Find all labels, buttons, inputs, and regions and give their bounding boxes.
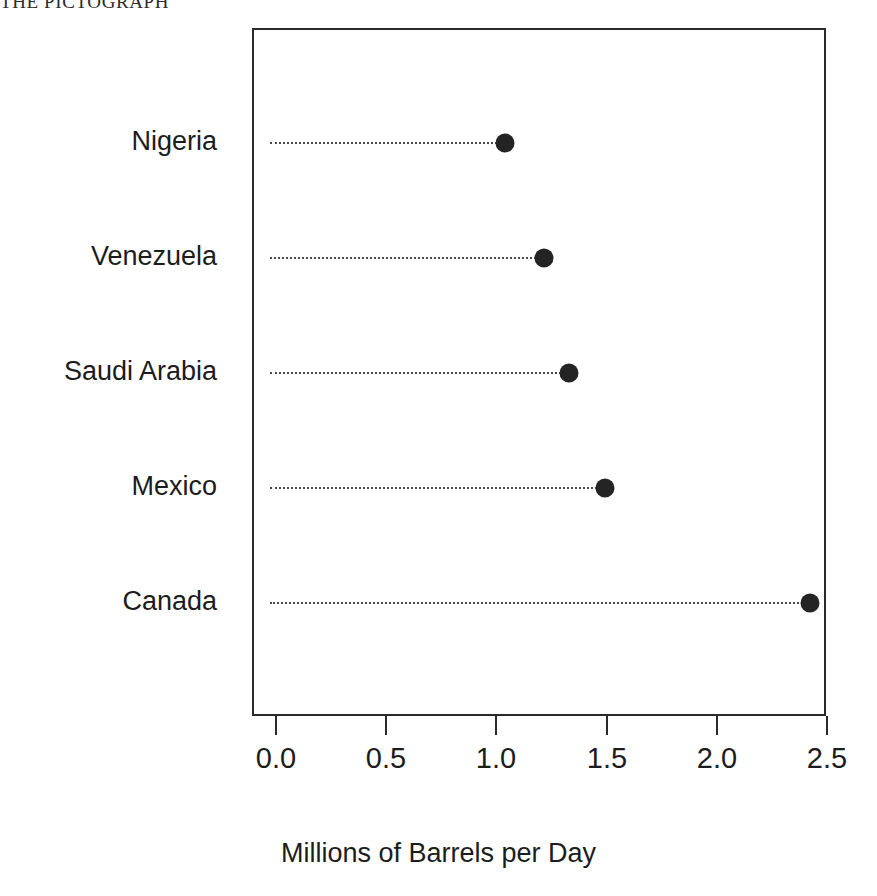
y-axis-label-venezuela: Venezuela (91, 241, 217, 272)
x-axis-tick-label-2: 1.0 (476, 742, 516, 775)
leader-line-venezuela (270, 257, 544, 259)
leader-line-nigeria (270, 142, 505, 144)
leader-line-mexico (270, 487, 605, 489)
leader-line-saudi-arabia (270, 372, 569, 374)
plot-panel (252, 28, 826, 716)
x-axis-tick-label-5: 2.5 (807, 742, 847, 775)
y-axis-labels: Nigeria Venezuela Saudi Arabia Mexico Ca… (0, 0, 235, 896)
dot-marker-nigeria (495, 134, 514, 153)
x-axis-tick-5 (826, 716, 828, 735)
dot-marker-mexico (596, 479, 615, 498)
x-axis-tick-label-1: 0.5 (366, 742, 406, 775)
x-axis-tick-label-4: 2.0 (697, 742, 737, 775)
x-axis-tick-label-0: 0.0 (256, 742, 296, 775)
y-axis-label-mexico: Mexico (131, 471, 217, 502)
dot-marker-venezuela (534, 249, 553, 268)
dot-marker-canada (801, 594, 820, 613)
x-axis-tick-label-3: 1.5 (587, 742, 627, 775)
y-axis-label-nigeria: Nigeria (131, 126, 217, 157)
x-axis-tick-4 (716, 716, 718, 735)
x-axis-tick-3 (606, 716, 608, 735)
dot-marker-saudi-arabia (559, 364, 578, 383)
x-axis-tick-2 (495, 716, 497, 735)
x-axis: 0.0 0.5 1.0 1.5 2.0 2.5 (252, 716, 826, 836)
y-axis-label-canada: Canada (122, 586, 217, 617)
y-axis-label-saudi-arabia: Saudi Arabia (64, 356, 217, 387)
leader-line-canada (270, 602, 810, 604)
x-axis-title: Millions of Barrels per Day (0, 838, 877, 869)
x-axis-tick-0 (275, 716, 277, 735)
x-axis-tick-1 (385, 716, 387, 735)
